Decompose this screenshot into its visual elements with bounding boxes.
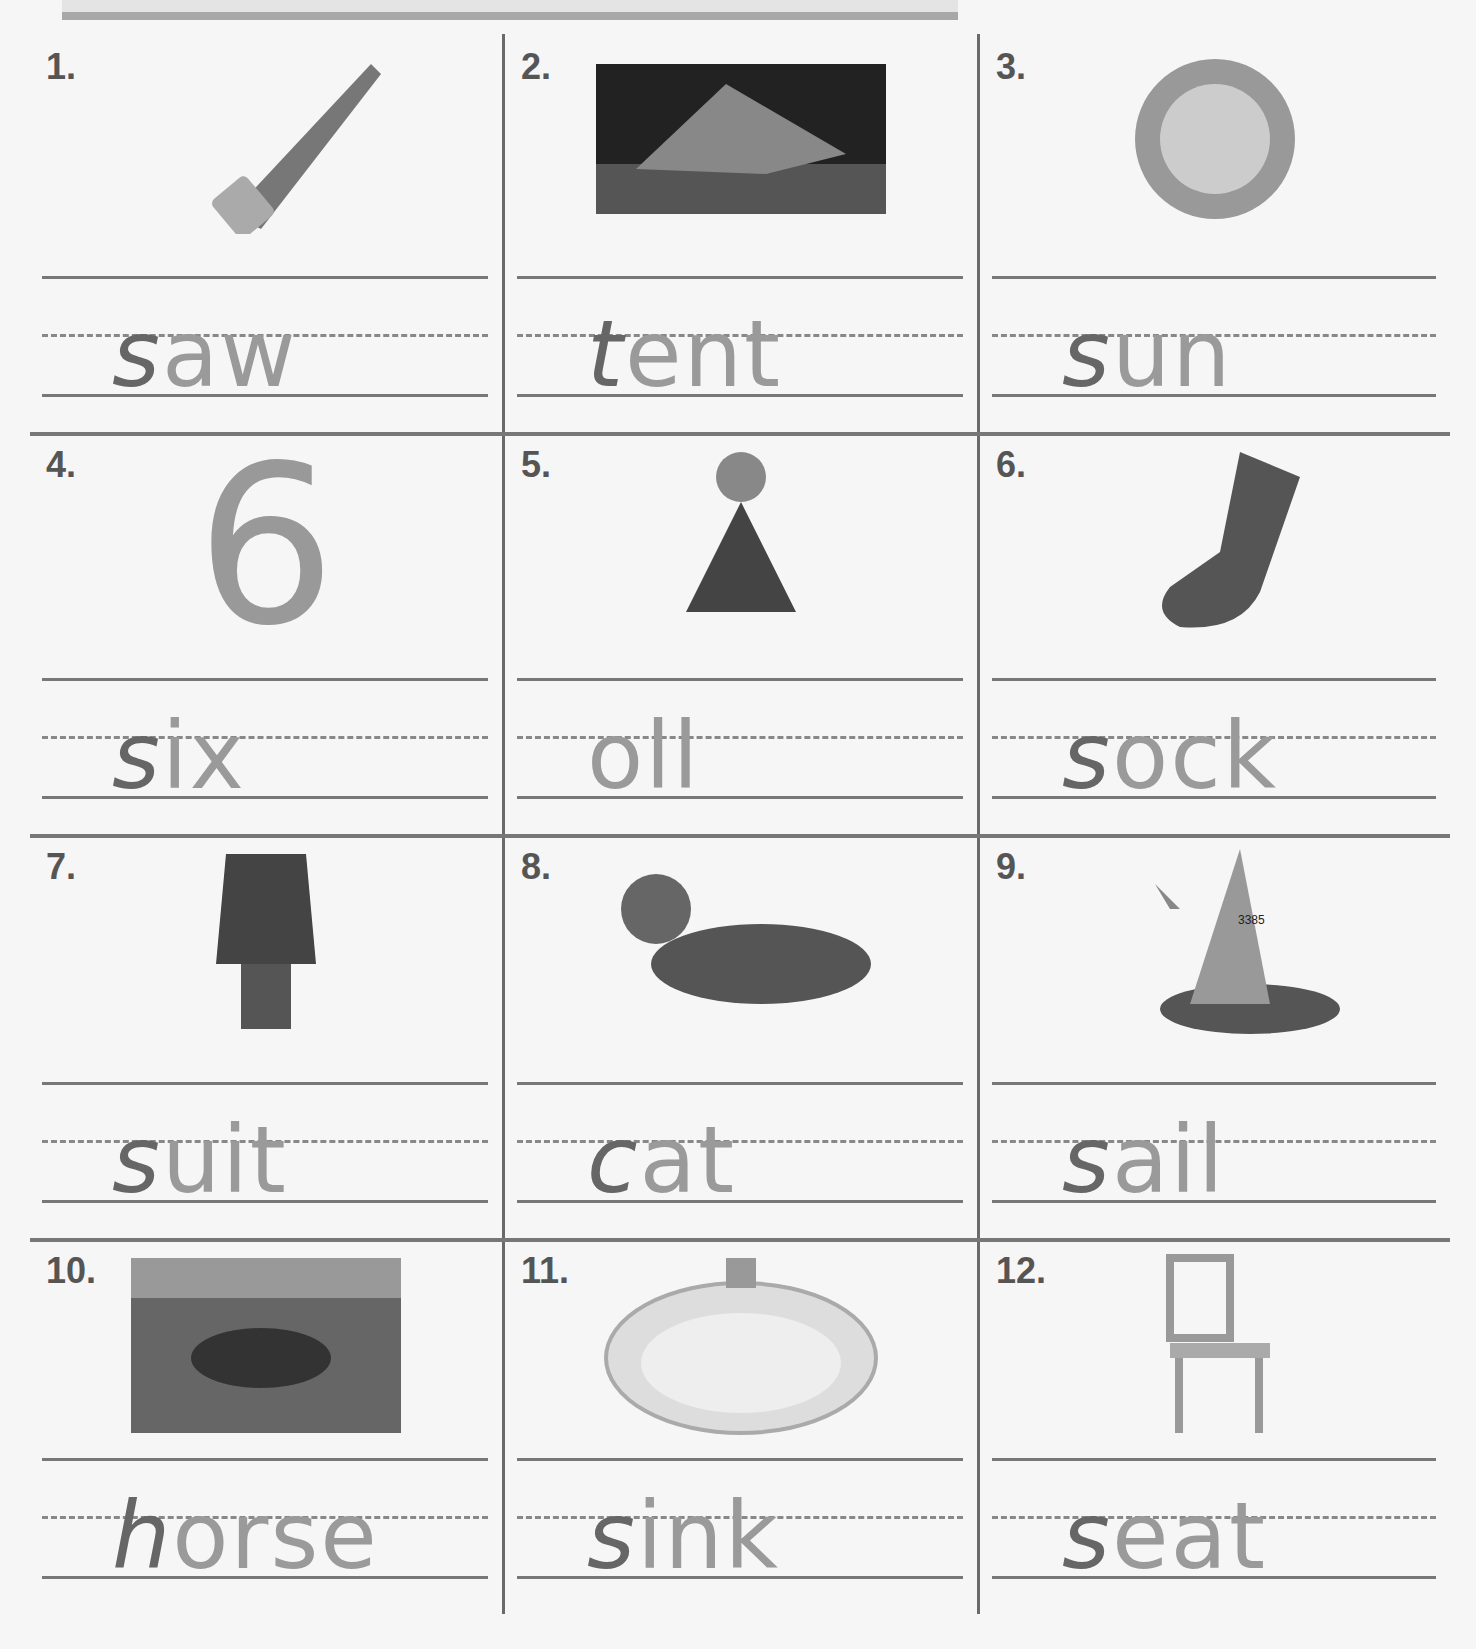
- answer-word[interactable]: sun: [1062, 314, 1233, 396]
- row-divider: [30, 834, 1450, 838]
- item-9: 9. 3385 sail: [980, 834, 1450, 1238]
- item-number: 11.: [521, 1250, 569, 1292]
- writing-lines: suit: [42, 1082, 488, 1204]
- writing-lines: cat: [517, 1082, 963, 1204]
- row-divider: [30, 432, 1450, 436]
- item-number: 6.: [996, 444, 1026, 486]
- answer-word[interactable]: sail: [1062, 1120, 1225, 1202]
- item-10: 10. horse: [30, 1238, 505, 1614]
- sun-icon: [1070, 44, 1360, 234]
- item-number: 12.: [996, 1250, 1046, 1292]
- horse-icon: [121, 1248, 411, 1438]
- item-number: 7.: [46, 846, 76, 888]
- item-2: 2. tent: [505, 34, 980, 432]
- item-1: 1. saw: [30, 34, 505, 432]
- doll-icon: [596, 442, 886, 632]
- item-11: 11. sink: [505, 1238, 980, 1614]
- chair-icon: [1070, 1248, 1360, 1438]
- item-number: 4.: [46, 444, 76, 486]
- saw-icon: [121, 44, 411, 234]
- item-number: 10.: [46, 1250, 96, 1292]
- writing-lines: tent: [517, 276, 963, 398]
- answer-word[interactable]: horse: [112, 1496, 379, 1578]
- item-7: 7. suit: [30, 834, 505, 1238]
- item-6: 6. sock: [980, 432, 1450, 834]
- svg-text:3385: 3385: [1238, 913, 1265, 927]
- row-divider: [30, 1238, 1450, 1242]
- writing-lines: sink: [517, 1458, 963, 1580]
- answer-word[interactable]: cat: [587, 1120, 736, 1202]
- sock-icon: [1070, 442, 1360, 632]
- item-number: 9.: [996, 846, 1026, 888]
- answer-word[interactable]: six: [112, 716, 246, 798]
- item-number: 5.: [521, 444, 551, 486]
- writing-lines: sail: [992, 1082, 1436, 1204]
- answer-word[interactable]: sink: [587, 1496, 780, 1578]
- item-number: 1.: [46, 46, 76, 88]
- writing-lines: six: [42, 678, 488, 800]
- item-number: 3.: [996, 46, 1026, 88]
- answer-word[interactable]: seat: [1062, 1496, 1267, 1578]
- cat-icon: [596, 844, 886, 1034]
- item-5: 5. oll: [505, 432, 980, 834]
- suit-icon: [121, 844, 411, 1034]
- writing-lines: oll: [517, 678, 963, 800]
- sailboat-icon: 3385: [1070, 844, 1360, 1034]
- answer-word[interactable]: suit: [112, 1120, 288, 1202]
- answer-word[interactable]: tent: [587, 314, 782, 396]
- item-4: 4. 6 six: [30, 432, 505, 834]
- header-bar: [62, 0, 958, 20]
- writing-lines: horse: [42, 1458, 488, 1580]
- writing-lines: sun: [992, 276, 1436, 398]
- tent-icon: [596, 44, 886, 234]
- item-number: 2.: [521, 46, 551, 88]
- item-8: 8. cat: [505, 834, 980, 1238]
- item-number: 8.: [521, 846, 551, 888]
- sink-icon: [596, 1248, 886, 1438]
- item-3: 3. sun: [980, 34, 1450, 432]
- svg-text:6: 6: [196, 442, 336, 632]
- answer-word[interactable]: oll: [587, 716, 700, 798]
- answer-word[interactable]: sock: [1062, 716, 1278, 798]
- writing-lines: sock: [992, 678, 1436, 800]
- number-six-icon: 6: [121, 442, 411, 632]
- worksheet-grid: 1. saw 2. tent 3. sun 4. 6 six 5.: [30, 34, 1450, 1614]
- writing-lines: saw: [42, 276, 488, 398]
- answer-word[interactable]: saw: [112, 314, 298, 396]
- item-12: 12. seat: [980, 1238, 1450, 1614]
- writing-lines: seat: [992, 1458, 1436, 1580]
